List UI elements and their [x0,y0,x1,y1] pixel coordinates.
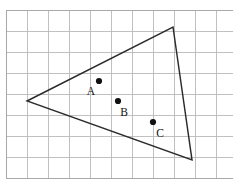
point-marker-a [96,78,102,84]
point-marker-b [115,98,121,104]
point-marker-c [150,119,156,125]
triangle-outline [27,27,192,160]
point-label-a: A [87,85,96,97]
point-label-c: C [156,127,164,139]
geometry-figure: ABC [0,0,233,185]
figure-canvas: ABC [0,0,233,185]
triangle-layer [27,27,192,160]
point-label-b: B [120,106,128,118]
